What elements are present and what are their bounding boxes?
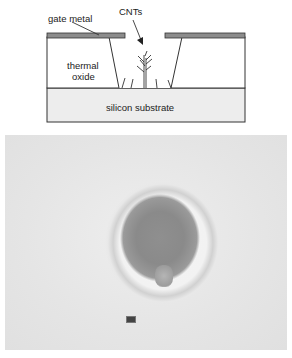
- thermal-oxide-label-line1: thermal: [67, 61, 99, 71]
- thermal-oxide-label-line2: oxide: [72, 72, 95, 82]
- device-cross-section-diagram: gate metal CNTs thermal oxide silicon su…: [0, 0, 292, 130]
- gate-metal-right: [165, 33, 245, 38]
- silicon-substrate-label: silicon substrate: [106, 103, 174, 113]
- gate-metal-label: gate metal: [48, 14, 92, 24]
- gate-metal-left: [47, 33, 125, 38]
- cnt-cluster-bright-spot: [155, 265, 173, 287]
- sem-micrograph: [5, 135, 287, 350]
- cavity: [110, 37, 181, 88]
- scale-bar: [126, 316, 136, 323]
- cnts-label: CNTs: [119, 7, 142, 17]
